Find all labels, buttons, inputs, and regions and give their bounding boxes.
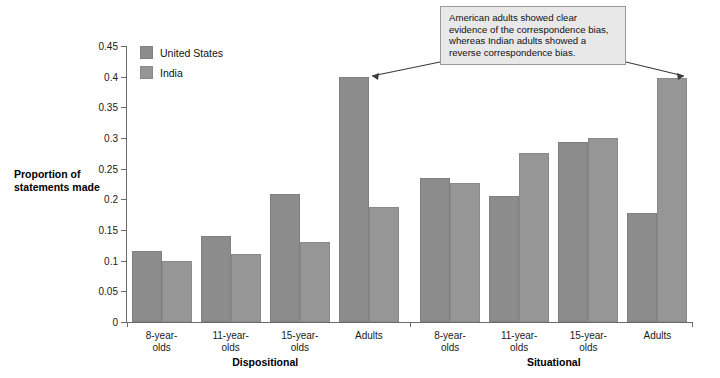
y-axis-tick-label: 0.2 (86, 194, 118, 205)
bar-united-states (489, 196, 519, 322)
x-axis-group-label: Situational (416, 356, 693, 368)
bar-india (519, 153, 549, 322)
y-axis-tick-label: 0.15 (86, 225, 118, 236)
y-axis-tick-label: 0.25 (86, 163, 118, 174)
legend-item-united-states: United States (140, 44, 223, 61)
legend-label-india: India (160, 67, 183, 79)
y-axis-tick-label: 0.45 (86, 41, 118, 52)
bar-india (300, 242, 330, 322)
y-axis-tick (121, 138, 126, 139)
plot-area (127, 46, 692, 322)
bar-united-states (420, 178, 450, 322)
x-axis-group-label: Dispositional (127, 356, 404, 368)
bar-united-states (132, 251, 162, 322)
bar-india (450, 183, 480, 322)
y-axis-tick (121, 46, 126, 47)
bar-india (162, 261, 192, 322)
y-axis-tick-label: 0.4 (86, 71, 118, 82)
bar-india (369, 207, 399, 322)
bar-india (657, 78, 687, 322)
legend-swatch-india (140, 66, 153, 79)
y-axis-tick-label: 0.3 (86, 133, 118, 144)
x-axis-group-tick (127, 322, 128, 327)
bar-layer (127, 46, 692, 322)
bar-united-states (627, 213, 657, 322)
y-axis-tick (121, 230, 126, 231)
legend: United States India (140, 44, 223, 84)
x-axis-group-tick (410, 322, 411, 327)
bar-india (588, 138, 618, 322)
y-axis-title-line-2: statements made (14, 181, 106, 194)
x-axis-group-tick (692, 322, 693, 327)
y-axis-tick (121, 322, 126, 323)
y-axis-tick (121, 199, 126, 200)
legend-item-india: India (140, 64, 223, 81)
y-axis-tick-label: 0.1 (86, 255, 118, 266)
annotation-callout: American adults showed clear evidence of… (440, 6, 626, 65)
bar-united-states (558, 142, 588, 322)
x-axis-category-label: Adults (324, 330, 414, 342)
bar-chart: Proportion of statements made 00.050.10.… (0, 0, 720, 378)
y-axis-tick (121, 291, 126, 292)
y-axis-tick (121, 77, 126, 78)
y-axis-tick (121, 169, 126, 170)
bar-united-states (270, 194, 300, 322)
bar-united-states (339, 77, 369, 322)
y-axis-tick (121, 261, 126, 262)
bar-india (231, 254, 261, 322)
bar-united-states (201, 236, 231, 322)
x-axis-category-label: Adults (612, 330, 702, 342)
legend-swatch-united-states (140, 46, 153, 59)
y-axis-tick-label: 0 (86, 317, 118, 328)
y-axis-tick (121, 107, 126, 108)
legend-label-united-states: United States (160, 47, 223, 59)
y-axis-tick-label: 0.05 (86, 286, 118, 297)
y-axis-tick-label: 0.35 (86, 102, 118, 113)
